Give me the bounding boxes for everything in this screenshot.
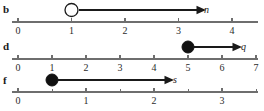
number-line-row-f: f0123s — [0, 0, 264, 111]
closed-endpoint-dot — [46, 74, 58, 86]
ray-variable-label: s — [173, 75, 177, 85]
number-line-figure: b01234nd01234567qf0123s — [0, 0, 264, 111]
tick-label: 1 — [78, 96, 94, 106]
tick-label: 3 — [214, 96, 230, 106]
tick-label: 2 — [146, 96, 162, 106]
tick-label: 0 — [10, 96, 26, 106]
